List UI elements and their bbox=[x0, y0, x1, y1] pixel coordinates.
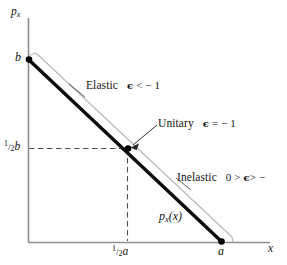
unitary-condition: = − 1 bbox=[212, 117, 236, 129]
midpoint-marker bbox=[125, 145, 132, 152]
inelastic-label: Inelastic bbox=[177, 171, 217, 183]
elastic-leader-line bbox=[69, 84, 85, 97]
x-axis-label: x bbox=[268, 243, 273, 255]
y-intercept-label: b bbox=[15, 51, 21, 63]
y-axis-label: px bbox=[11, 6, 20, 19]
inelastic-condition: > − bbox=[250, 171, 265, 183]
unitary-arrow-shaft bbox=[133, 125, 157, 145]
elastic-label: Elastic bbox=[86, 79, 118, 91]
unitary-label: Unitary bbox=[158, 117, 194, 129]
x-tick-variable: a bbox=[123, 245, 129, 257]
demand-function-argument: (x) bbox=[169, 209, 182, 223]
y-axis-label-subscript: x bbox=[17, 10, 21, 19]
inelastic-lead: 0 > bbox=[226, 171, 241, 183]
x-midpoint-tick-label: 1/2a bbox=[112, 245, 128, 258]
y-intercept-point-marker bbox=[26, 56, 33, 63]
elastic-condition: < − 1 bbox=[136, 79, 160, 91]
y-tick-variable: b bbox=[15, 140, 21, 152]
elastic-region-annotation: Elasticϵ < − 1 bbox=[86, 80, 160, 92]
unitary-region-annotation: Unitaryϵ = − 1 bbox=[158, 118, 236, 130]
demand-function-label: px(x) bbox=[159, 210, 182, 224]
shadow-line-bottom-cap bbox=[232, 237, 233, 242]
shadow-line-top-cap bbox=[29, 53, 36, 56]
unitary-epsilon-symbol: ϵ bbox=[203, 118, 209, 129]
x-intercept-label: a bbox=[218, 245, 224, 257]
figure-graphics bbox=[0, 0, 287, 265]
elastic-epsilon-symbol: ϵ bbox=[127, 80, 133, 91]
y-midpoint-tick-label: 1/2b bbox=[4, 140, 20, 153]
inelastic-region-annotation: Inelastic0 > ϵ> − bbox=[177, 172, 265, 184]
elasticity-demand-curve-figure: px x b a 1/2b 1/2a Elasticϵ < − 1 Unitar… bbox=[0, 0, 287, 265]
